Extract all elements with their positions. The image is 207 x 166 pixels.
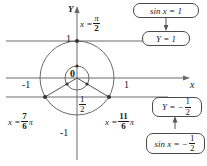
- point-origin-top: [75, 64, 78, 67]
- callout-Y1-text: Y = 1: [156, 34, 176, 44]
- point-7pi-over-6: [43, 95, 47, 99]
- x-axis-label: x: [190, 80, 194, 90]
- callout-Y-equals-neg-half[interactable]: Y = − 1 2: [152, 97, 202, 117]
- point-pi-over-2: [75, 39, 79, 43]
- fraction-pi-over-2: π 2: [93, 14, 100, 33]
- label-x-equals-pi-over-2: x = π 2: [80, 14, 101, 33]
- y-axis-arrowhead: [74, 6, 79, 13]
- y-tick-1: 1: [66, 34, 71, 44]
- callout-sinxneghalf-den: 2: [189, 144, 196, 153]
- unit-circle-figure: Y x 0 1 -1 -1 1 x = π 2 1 2 x = 7 6 π x …: [0, 0, 207, 166]
- origin-label: 0: [70, 69, 75, 79]
- point-11pi-over-6: [107, 95, 111, 99]
- fraction-7pi6-denominator: 6: [21, 122, 28, 131]
- label-11pi6-prefix: x =: [105, 117, 117, 127]
- fraction-11pi6-denominator: 6: [118, 122, 129, 131]
- label-pi2-prefix: x =: [80, 19, 92, 29]
- label-7pi6-prefix: x =: [8, 117, 20, 127]
- callout-sinxneghalf-fraction: 1 2: [189, 134, 196, 153]
- callout-Yneghalf-prefix: Y = −: [162, 102, 184, 112]
- point-inner-right: [85, 82, 88, 85]
- x-tick-1: 1: [124, 80, 129, 90]
- label-x-equals-7pi-over-6: x = 7 6 π: [8, 112, 33, 131]
- radius-7pi-over-6: [45, 78, 77, 97]
- callout-sinxneghalf-text: sin x = − 1 2: [155, 134, 197, 153]
- fraction-one-half: 1 2: [79, 95, 86, 114]
- fraction-7-over-6: 7 6: [21, 112, 28, 131]
- x-tick-neg1: -1: [22, 80, 30, 90]
- callout-Yneghalf-text: Y = − 1 2: [162, 97, 192, 116]
- callout-sinx1-text: sin x = 1: [150, 6, 182, 16]
- y-axis-label: Y: [68, 5, 74, 14]
- callout-sinxneghalf-prefix: sin x = −: [155, 139, 188, 149]
- callout-sinx-equals-1[interactable]: sin x = 1: [133, 3, 199, 18]
- callout-Yneghalf-den: 2: [185, 108, 192, 117]
- callout-sinx-equals-neg-half[interactable]: sin x = − 1 2: [146, 133, 205, 154]
- label-x-equals-11pi-over-6: x = 11 6 π: [105, 112, 134, 131]
- x-axis-arrowhead: [183, 75, 190, 80]
- label-one-half: 1 2: [78, 95, 87, 114]
- label-11pi6-suffix: π: [130, 118, 134, 127]
- point-inner-left: [65, 82, 68, 85]
- fraction-pi2-denominator: 2: [93, 24, 100, 33]
- callout-Y-equals-1[interactable]: Y = 1: [142, 31, 190, 46]
- label-7pi6-suffix: π: [29, 118, 33, 127]
- fraction-half-denominator: 2: [79, 105, 86, 114]
- fraction-11-over-6: 11 6: [118, 112, 129, 131]
- y-tick-neg1: -1: [60, 128, 68, 138]
- callout-Yneghalf-num: 1: [185, 97, 192, 107]
- callout-Yneghalf-fraction: 1 2: [185, 97, 192, 116]
